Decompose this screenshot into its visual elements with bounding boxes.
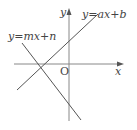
- origin-label: O: [60, 65, 69, 78]
- coordinate-diagram: y x O y=ax+b y=mx+n: [0, 0, 137, 130]
- x-axis-label: x: [115, 65, 122, 78]
- y-axis-label: y: [59, 6, 67, 19]
- line-ax-plus-b-label: y=ax+b: [81, 8, 126, 21]
- line-mx-plus-n-label: y=mx+n: [7, 30, 56, 43]
- y-axis-arrow-icon: [67, 8, 72, 15]
- line-mx-plus-n: [22, 43, 81, 120]
